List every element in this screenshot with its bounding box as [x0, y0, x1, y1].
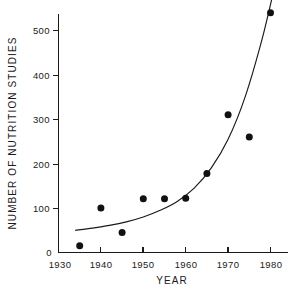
- y-tick-label-200: 200: [33, 159, 50, 170]
- data-point: [97, 205, 104, 212]
- y-tick-label-500: 500: [33, 25, 50, 36]
- data-point: [119, 229, 126, 236]
- y-tick-label-300: 300: [33, 114, 50, 125]
- y-axis-title: NUMBER OF NUTRITION STUDIES: [7, 36, 18, 229]
- data-point: [140, 195, 147, 202]
- axes-group: [59, 14, 289, 253]
- y-tick-label-100: 100: [33, 203, 50, 214]
- data-points-group: [76, 9, 274, 249]
- y-tick-label-0: 0: [46, 247, 52, 258]
- y-axis-ticks: 500 400 300 200 100 0: [33, 25, 59, 258]
- chart-figure: 500 400 300 200 100 0 1930 1940 1950 196…: [0, 0, 304, 291]
- data-point: [76, 242, 83, 249]
- scatter-plot-svg: 500 400 300 200 100 0 1930 1940 1950 196…: [0, 0, 304, 291]
- data-point: [246, 134, 253, 141]
- x-tick-label-1940: 1940: [90, 259, 113, 270]
- x-tick-label-1980: 1980: [260, 259, 283, 270]
- data-point: [225, 111, 232, 118]
- data-point: [267, 9, 274, 16]
- data-point: [203, 170, 210, 177]
- y-tick-label-400: 400: [33, 70, 50, 81]
- x-axis-title: YEAR: [156, 275, 188, 286]
- x-tick-label-1960: 1960: [175, 259, 198, 270]
- x-tick-label-1950: 1950: [132, 259, 155, 270]
- fit-curve-path: [75, 0, 274, 230]
- data-point: [161, 195, 168, 202]
- data-point: [182, 195, 189, 202]
- x-axis-ticks: 1930 1940 1950 1960 1970 1980: [49, 247, 283, 270]
- x-tick-label-1930: 1930: [49, 259, 72, 270]
- x-tick-label-1970: 1970: [217, 259, 240, 270]
